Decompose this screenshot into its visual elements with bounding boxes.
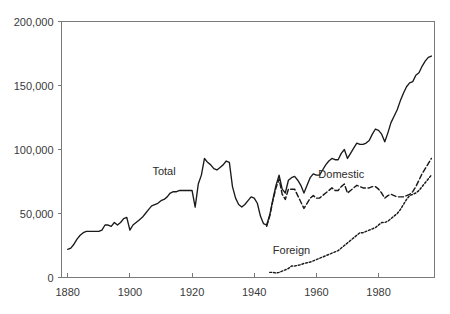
series-label-domestic: Domestic xyxy=(318,168,364,180)
plot-frame xyxy=(62,22,435,278)
x-tick-label: 1920 xyxy=(180,286,204,298)
x-tick-label: 1960 xyxy=(304,286,328,298)
y-tick-label: 0 xyxy=(47,272,53,284)
x-tick-label: 1980 xyxy=(366,286,390,298)
line-chart: 050,000100,000150,000200,000 18801900192… xyxy=(0,0,450,314)
series-label-foreign: Foreign xyxy=(273,244,310,256)
chart-container: 050,000100,000150,000200,000 18801900192… xyxy=(0,0,450,314)
y-axis-ticks: 050,000100,000150,000200,000 xyxy=(14,16,62,284)
series-lines xyxy=(68,56,432,273)
y-tick-label: 50,000 xyxy=(20,208,54,220)
x-axis-ticks: 188019001920194019601980 xyxy=(55,273,390,298)
x-tick-label: 1900 xyxy=(118,286,142,298)
series-label-total: Total xyxy=(152,165,175,177)
series-line-total xyxy=(68,56,432,249)
x-tick-label: 1940 xyxy=(242,286,266,298)
y-tick-label: 150,000 xyxy=(14,80,54,92)
y-tick-label: 200,000 xyxy=(14,16,54,28)
x-tick-label: 1880 xyxy=(55,286,79,298)
axis-frame xyxy=(62,22,435,278)
y-tick-label: 100,000 xyxy=(14,144,54,156)
